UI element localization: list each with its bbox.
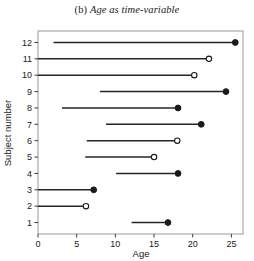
y-tick-label: 6 bbox=[27, 136, 32, 146]
subject-segment-7 bbox=[106, 121, 204, 127]
x-tick-label: 0 bbox=[35, 239, 40, 249]
censored-marker-2 bbox=[83, 203, 88, 208]
y-tick-label: 3 bbox=[27, 185, 32, 195]
x-axis-title: Age bbox=[133, 248, 150, 259]
y-tick-label: 1 bbox=[27, 218, 32, 228]
chart-plot-area: 0510152025 123456789101112 Age Subject n… bbox=[0, 0, 254, 261]
censored-marker-5 bbox=[151, 154, 156, 159]
subject-segment-2 bbox=[38, 203, 89, 208]
y-tick-label: 7 bbox=[27, 120, 32, 130]
event-marker-3 bbox=[91, 187, 97, 193]
subject-segment-4 bbox=[116, 171, 181, 177]
y-axis-ticks: 123456789101112 bbox=[22, 38, 38, 228]
y-tick-label: 9 bbox=[27, 87, 32, 97]
subject-segment-3 bbox=[38, 187, 97, 193]
subject-segment-5 bbox=[85, 154, 157, 159]
x-tick-label: 5 bbox=[74, 239, 79, 249]
y-tick-label: 5 bbox=[27, 152, 32, 162]
event-marker-1 bbox=[165, 220, 171, 226]
y-tick-label: 11 bbox=[23, 54, 32, 64]
subject-segment-9 bbox=[100, 89, 229, 95]
subject-segment-6 bbox=[87, 138, 180, 143]
event-marker-8 bbox=[175, 105, 181, 111]
x-tick-label: 25 bbox=[226, 239, 236, 249]
y-tick-label: 12 bbox=[22, 38, 32, 48]
subject-lines bbox=[38, 40, 238, 226]
y-axis-title: Subject number bbox=[2, 100, 13, 167]
event-marker-12 bbox=[232, 40, 238, 46]
x-tick-label: 10 bbox=[110, 239, 120, 249]
censored-marker-6 bbox=[175, 138, 180, 143]
subject-segment-11 bbox=[38, 56, 212, 61]
x-tick-label: 20 bbox=[188, 239, 198, 249]
censored-marker-11 bbox=[206, 56, 211, 61]
subject-segment-12 bbox=[53, 40, 238, 46]
figure-panel: (b) Age as time-variable 0510152025 1234… bbox=[0, 0, 254, 261]
censored-marker-10 bbox=[192, 73, 197, 78]
subject-segment-1 bbox=[132, 220, 171, 226]
x-tick-label: 15 bbox=[149, 239, 159, 249]
event-marker-7 bbox=[198, 121, 204, 127]
event-marker-4 bbox=[175, 171, 181, 177]
subject-segment-8 bbox=[62, 105, 181, 111]
y-tick-label: 4 bbox=[27, 169, 32, 179]
event-marker-9 bbox=[223, 89, 229, 95]
plot-frame bbox=[38, 31, 243, 234]
y-tick-label: 10 bbox=[22, 70, 32, 80]
subject-segment-10 bbox=[38, 73, 197, 78]
y-tick-label: 2 bbox=[27, 201, 32, 211]
y-tick-label: 8 bbox=[27, 103, 32, 113]
x-axis-ticks: 0510152025 bbox=[35, 234, 236, 249]
